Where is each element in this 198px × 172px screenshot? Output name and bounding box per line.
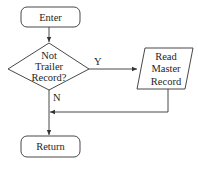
decision-node: Not Trailer Record? xyxy=(8,43,89,90)
flowchart: Enter Not Trailer Record? Y Read Master … xyxy=(0,0,198,172)
read-line-1: Read xyxy=(155,51,177,62)
return-node: Return xyxy=(21,136,80,157)
yes-label: Y xyxy=(94,56,102,67)
enter-node: Enter xyxy=(21,7,80,27)
read-line-2: Master xyxy=(151,63,181,74)
decision-line-2: Trailer xyxy=(35,61,64,72)
enter-label: Enter xyxy=(39,12,62,23)
decision-line-1: Not xyxy=(41,50,57,61)
decision-line-3: Record? xyxy=(32,72,67,83)
return-label: Return xyxy=(36,141,65,152)
no-label: N xyxy=(53,92,61,103)
read-line-3: Record xyxy=(151,76,182,87)
read-master-record-node: Read Master Record xyxy=(137,48,193,89)
edge-read-return xyxy=(50,89,168,112)
